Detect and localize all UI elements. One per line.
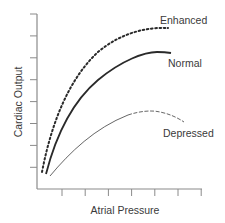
- depressed-label: Depressed: [163, 127, 214, 139]
- y-axis-label: Cardiac Output: [12, 67, 24, 138]
- depressed-curve-dashed: [128, 111, 184, 122]
- normal-label: Normal: [168, 57, 202, 69]
- x-axis-ticks: [62, 189, 201, 196]
- enhanced-curve: [42, 28, 168, 172]
- depressed-curve-solid: [50, 115, 128, 176]
- enhanced-label: Enhanced: [160, 14, 207, 26]
- x-axis-label: Atrial Pressure: [91, 204, 160, 216]
- y-axis-ticks: [30, 14, 37, 167]
- cardiac-output-chart: Enhanced Normal Depressed Atrial Pressur…: [0, 0, 225, 223]
- normal-curve: [46, 52, 171, 174]
